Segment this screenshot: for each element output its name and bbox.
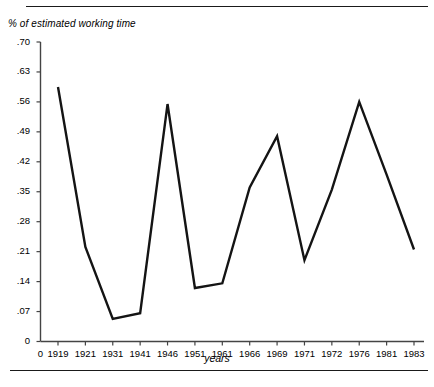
axes-group	[37, 42, 425, 346]
y-axis-tick-label: .14	[4, 276, 30, 286]
y-axis-tick-label: .56	[4, 96, 30, 106]
y-axis-tick-label: .63	[4, 66, 30, 76]
y-axis-tick-label: .42	[4, 156, 30, 166]
data-series-line	[58, 87, 414, 319]
x-axis-title: years	[0, 352, 434, 364]
y-axis-tick-label: .07	[4, 306, 30, 316]
y-axis-tick-label: .28	[4, 216, 30, 226]
y-axis-tick-label: .21	[4, 246, 30, 256]
y-axis-tick-label: .70	[4, 37, 30, 47]
bottom-divider-rule	[10, 370, 428, 371]
y-axis-tick-label: .35	[4, 186, 30, 196]
y-axis-tick-label: .49	[4, 126, 30, 136]
line-chart-plot	[0, 0, 434, 387]
figure-container: % of estimated working time .70.63.56.49…	[0, 0, 434, 387]
y-axis-tick-label: 0	[4, 336, 30, 346]
